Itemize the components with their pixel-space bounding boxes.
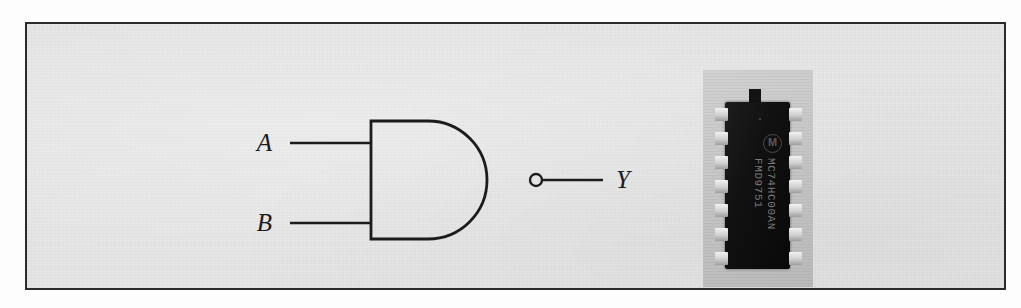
ic-pin-left-6	[715, 228, 728, 241]
chip-orientation-tab	[749, 89, 761, 102]
ic-pin-left-1	[715, 108, 728, 121]
ic-marking-line-2: FMD9751	[751, 158, 764, 258]
ic-pin-right-2	[789, 132, 802, 145]
ic-pin-left-7	[715, 252, 728, 265]
ic-pin-right-3	[789, 156, 802, 169]
inversion-bubble	[530, 174, 542, 186]
ic-pin-right-6	[789, 228, 802, 241]
package-speck	[759, 118, 761, 120]
ic-marking-line-1: MC74HC00AN	[764, 158, 777, 258]
ic-part-marking: MC74HC00AN FMD9751	[739, 158, 777, 258]
output-y-label: Y	[616, 166, 633, 193]
scanned-page: A B Y M MC74HC00AN FMD9751	[0, 0, 1021, 308]
ic-pin-right-5	[789, 204, 802, 217]
gate-body	[371, 121, 487, 239]
ic-pin-left-4	[715, 180, 728, 193]
ic-package-body: M MC74HC00AN FMD9751	[725, 102, 790, 269]
ic-pin-left-5	[715, 204, 728, 217]
nand-gate-svg: A B Y	[232, 84, 652, 264]
input-a-label: A	[255, 129, 273, 156]
figure-panel: A B Y M MC74HC00AN FMD9751	[25, 22, 1006, 290]
ic-pin-right-7	[789, 252, 802, 265]
motorola-logo-icon: M	[763, 134, 782, 153]
ic-pin-right-4	[789, 180, 802, 193]
ic-pin-left-3	[715, 156, 728, 169]
ic-pin-left-2	[715, 132, 728, 145]
nand-gate-diagram: A B Y	[232, 84, 652, 264]
ic-pin-right-1	[789, 108, 802, 121]
ic-photograph: M MC74HC00AN FMD9751	[703, 70, 813, 287]
input-b-label: B	[257, 209, 272, 236]
